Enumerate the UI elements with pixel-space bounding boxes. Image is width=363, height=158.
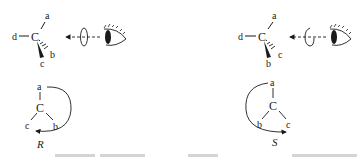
rs-configuration-diagram: d C a b c a C c b R d xyxy=(0,0,363,158)
config-label-s: S xyxy=(272,136,278,148)
label-b: b xyxy=(50,49,55,60)
right-viewer xyxy=(290,24,351,46)
label-c: c xyxy=(278,49,283,60)
label-d: d xyxy=(12,31,17,42)
proj-label-carbon: C xyxy=(269,99,277,113)
proj-label-c: c xyxy=(25,120,30,131)
label-a: a xyxy=(45,10,50,21)
label-d: d xyxy=(238,31,243,42)
left-viewer xyxy=(66,24,126,46)
config-label-r: R xyxy=(36,138,44,150)
proj-label-a: a xyxy=(37,81,42,92)
left-perspective-structure: d C a b c xyxy=(12,10,55,69)
proj-label-a: a xyxy=(270,77,275,88)
cropped-caption xyxy=(55,154,357,157)
right-projection-structure: a C b c S xyxy=(246,77,291,148)
label-a: a xyxy=(272,10,277,21)
label-carbon: C xyxy=(258,30,266,44)
label-c: c xyxy=(40,58,45,69)
eye-icon xyxy=(104,24,126,45)
label-b: b xyxy=(266,58,271,69)
eye-icon xyxy=(330,24,351,45)
counterclockwise-arrow-icon xyxy=(246,83,286,132)
proj-label-carbon: C xyxy=(36,101,44,115)
right-perspective-structure: d C a c b xyxy=(238,10,283,69)
label-carbon: C xyxy=(31,30,39,44)
left-projection-structure: a C c b R xyxy=(25,81,71,150)
hash-bond xyxy=(266,40,275,49)
proj-label-c: c xyxy=(286,119,291,130)
hash-bond xyxy=(39,40,48,49)
